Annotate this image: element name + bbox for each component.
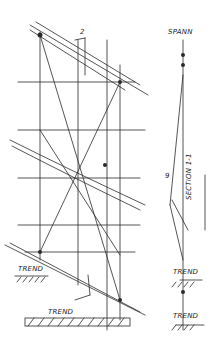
label-trend-right-2: TREND — [173, 312, 198, 320]
label-trend-left: TREND — [18, 265, 43, 273]
label-spann: SPANN — [168, 28, 193, 36]
label-marker-2: 2 — [80, 28, 85, 36]
label-trend-bottom: TREND — [48, 308, 73, 316]
label-marker-9: 9 — [165, 172, 170, 180]
label-trend-right-1: TREND — [173, 268, 198, 276]
label-section: SECTION 1-1 — [185, 153, 193, 200]
